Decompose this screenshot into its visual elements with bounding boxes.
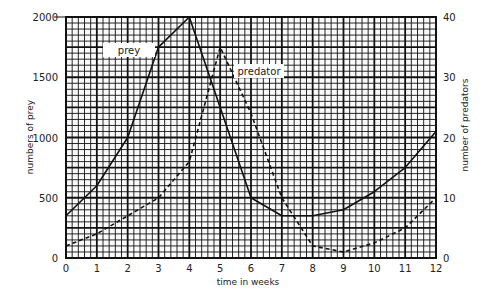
y-tick-label-prey: 0 (52, 253, 58, 264)
predator-prey-chart: 0123456789101112050010001500200001020304… (0, 0, 491, 301)
y-axis-label-predators: number of predators (460, 78, 470, 171)
y-tick-label-predators: 40 (443, 12, 456, 23)
x-tick-label: 6 (248, 263, 254, 274)
x-tick-label: 11 (399, 263, 412, 274)
x-tick-label: 1 (94, 263, 100, 274)
predator-label-box: predator (234, 64, 284, 78)
x-tick-label: 2 (124, 263, 130, 274)
prey-label-box: prey (103, 43, 155, 57)
x-tick-label: 0 (63, 263, 69, 274)
x-tick-label: 8 (309, 263, 315, 274)
x-tick-label: 10 (368, 263, 381, 274)
x-axis-label: time in weeks (217, 277, 280, 287)
y-tick-label-prey: 1500 (33, 72, 58, 83)
x-tick-label: 9 (340, 263, 346, 274)
y-tick-label-prey: 500 (39, 193, 58, 204)
x-tick-label: 12 (430, 263, 443, 274)
y-axis-label-prey: numbers of prey (25, 99, 35, 174)
y-tick-label-predators: 20 (443, 133, 456, 144)
x-tick-label: 3 (155, 263, 161, 274)
y-tick-label-predators: 30 (443, 72, 456, 83)
x-tick-label: 4 (186, 263, 192, 274)
y-tick-label-prey: 1000 (33, 133, 58, 144)
prey-label: prey (118, 45, 140, 56)
y-tick-label-prey: 2000 (33, 12, 58, 23)
x-tick-label: 5 (217, 263, 223, 274)
predator-label: predator (237, 66, 281, 77)
y-tick-label-predators: 0 (443, 253, 449, 264)
y-tick-label-predators: 10 (443, 193, 456, 204)
x-tick-label: 7 (279, 263, 285, 274)
